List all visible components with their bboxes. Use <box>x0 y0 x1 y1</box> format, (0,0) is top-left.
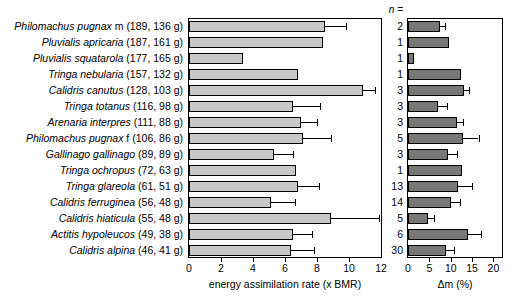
data-bar <box>408 229 468 240</box>
data-bar <box>189 21 325 32</box>
axis-tick-label: 12 <box>366 262 396 275</box>
bar-row <box>408 99 502 115</box>
error-bar-cap <box>317 119 318 126</box>
species-scientific-name: Calidris ferruginea <box>50 196 135 208</box>
species-label: Tringa glareola (61, 51 g) <box>66 178 183 194</box>
error-bar-cap <box>469 87 470 94</box>
energy-assimilation-plot <box>188 18 382 258</box>
page-edge-artifact <box>0 296 521 306</box>
data-bar <box>189 133 303 144</box>
error-bar <box>298 186 319 187</box>
species-scientific-name: Pluvialis squatarola <box>33 52 123 64</box>
error-bar-cap <box>454 247 455 254</box>
species-mass-values: (55, 48 g) <box>135 212 183 224</box>
axis-tick-label: 2 <box>206 262 236 275</box>
error-bar <box>301 122 317 123</box>
axis-tick-label: 6 <box>270 262 300 275</box>
error-bar-cap <box>434 215 435 222</box>
species-label: Tringa ochropus (72, 63 g) <box>60 162 183 178</box>
bar-row <box>408 19 502 35</box>
error-bar <box>468 234 481 235</box>
bar-row <box>408 179 502 195</box>
error-bar <box>291 250 313 251</box>
species-label: Calidris ferruginea (56, 48 g) <box>50 194 183 210</box>
error-bar-cap <box>457 151 458 158</box>
data-bar <box>189 245 291 256</box>
axis-tick-label: 0 <box>174 262 204 275</box>
species-mass-values: (111, 88 g) <box>131 116 183 128</box>
error-bar-cap <box>481 231 482 238</box>
error-bar-cap <box>295 199 296 206</box>
data-bar <box>189 101 293 112</box>
species-label: Calidris hiaticula (55, 48 g) <box>59 210 183 226</box>
data-bar <box>189 165 296 176</box>
error-bar-cap <box>445 23 446 30</box>
species-mass-values: (46, 41 g) <box>135 244 183 256</box>
data-bar <box>189 149 274 160</box>
species-mass-values: (116, 98 g) <box>130 100 183 112</box>
species-mass-values: (61, 51 g) <box>135 180 183 192</box>
bar-row <box>408 227 502 243</box>
data-bar <box>408 53 414 64</box>
data-bar <box>189 181 298 192</box>
bar-row <box>408 131 502 147</box>
species-mass-values: m (189, 136 g) <box>112 20 183 32</box>
data-bar <box>189 229 293 240</box>
species-mass-values: (128, 103 g) <box>123 84 183 96</box>
bar-row <box>189 131 381 147</box>
error-bar-cap <box>293 151 294 158</box>
bar-row <box>189 243 381 259</box>
bar-row <box>189 99 381 115</box>
species-scientific-name: Philomachus pugnax <box>26 132 123 144</box>
data-bar <box>408 101 438 112</box>
bar-row <box>189 51 381 67</box>
error-bar <box>293 234 312 235</box>
data-bar <box>408 149 448 160</box>
data-bar <box>408 181 458 192</box>
bar-row <box>408 51 502 67</box>
error-bar-cap <box>320 103 321 110</box>
delta-mass-plot <box>407 18 503 258</box>
bar-row <box>408 211 502 227</box>
species-scientific-name: Tringa nebularia <box>48 68 123 80</box>
species-scientific-name: Calidris canutus <box>49 84 124 96</box>
species-scientific-name: Calidris hiaticula <box>59 212 135 224</box>
species-scientific-name: Tringa ochropus <box>60 164 135 176</box>
species-label: Philomachus pugnax m (189, 136 g) <box>14 18 183 34</box>
axis-tick-label: 20 <box>478 262 508 275</box>
error-bar <box>446 250 454 251</box>
species-label: Calidris alpina (46, 41 g) <box>69 242 183 258</box>
species-label: Arenaria interpres (111, 88 g) <box>47 114 183 130</box>
species-mass-values: (187, 161 g) <box>123 36 183 48</box>
bar-row <box>189 83 381 99</box>
chart-figure: Philomachus pugnax m (189, 136 g)Pluvial… <box>0 0 521 306</box>
species-mass-values: (72, 63 g) <box>135 164 183 176</box>
species-label: Pluvialis squatarola (177, 165 g) <box>33 50 183 66</box>
species-mass-values: (89, 89 g) <box>135 148 183 160</box>
species-mass-values: (157, 132 g) <box>123 68 183 80</box>
bar-row <box>408 115 502 131</box>
data-bar <box>408 197 451 208</box>
data-bar <box>408 85 464 96</box>
data-bar <box>408 21 440 32</box>
error-bar <box>274 154 293 155</box>
error-bar <box>463 138 478 139</box>
error-bar-cap <box>472 183 473 190</box>
error-bar <box>438 106 447 107</box>
n-header-label: n = <box>389 4 403 15</box>
bar-row <box>189 211 381 227</box>
axis-tick-label: 8 <box>302 262 332 275</box>
data-bar <box>408 133 463 144</box>
error-bar-cap <box>463 119 464 126</box>
bar-row <box>189 115 381 131</box>
error-bar-cap <box>331 135 332 142</box>
bar-row <box>189 163 381 179</box>
data-bar <box>189 197 271 208</box>
data-bar <box>408 37 449 48</box>
species-mass-values: f (106, 86 g) <box>123 132 183 144</box>
error-bar <box>458 186 472 187</box>
data-bar <box>189 213 331 224</box>
species-label: Actitis hypoleucos (49, 38 g) <box>51 226 183 242</box>
species-scientific-name: Actitis hypoleucos <box>51 228 135 240</box>
bar-row <box>189 179 381 195</box>
